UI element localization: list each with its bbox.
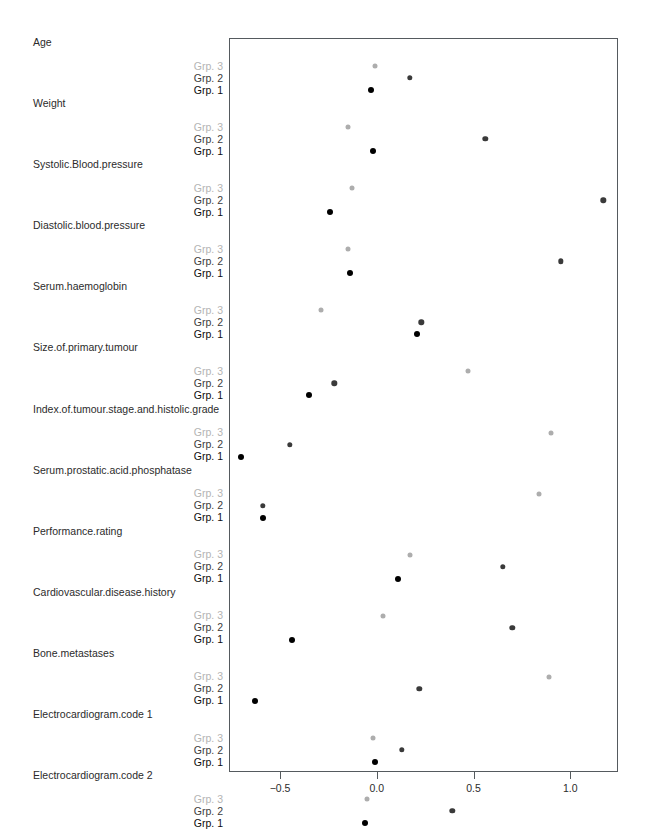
category-label: Weight: [33, 98, 66, 109]
group-label-text: Grp. 3: [163, 733, 223, 744]
data-point[interactable]: [349, 186, 354, 191]
group-label-text: Grp. 2: [163, 439, 223, 450]
data-point[interactable]: [372, 759, 378, 765]
category-label: Electrocardiogram.code 1: [33, 709, 153, 720]
group-label: Grp. 1: [161, 818, 223, 830]
data-point[interactable]: [318, 308, 323, 313]
group-label-text: Grp. 1: [163, 390, 223, 401]
data-point[interactable]: [370, 736, 375, 741]
group-label-text: Grp. 3: [163, 671, 223, 682]
category-label: Age: [33, 37, 52, 48]
axis-tick: [280, 772, 281, 779]
data-point[interactable]: [372, 64, 377, 69]
category-label: Electrocardiogram.code 2: [33, 770, 153, 781]
group-label: Grp. 3: [161, 183, 223, 195]
group-label-text: Grp. 2: [163, 134, 223, 145]
axis-tick: [377, 772, 378, 779]
group-label-text: Grp. 2: [163, 622, 223, 633]
data-point[interactable]: [380, 613, 385, 618]
group-label: Grp. 2: [161, 195, 223, 207]
group-label-text: Grp. 2: [163, 683, 223, 694]
data-point[interactable]: [345, 125, 350, 130]
data-point[interactable]: [260, 515, 266, 521]
group-label: Grp. 1: [161, 512, 223, 524]
dotplot-page: AgeWeightSystolic.Blood.pressureDiastoli…: [0, 0, 649, 835]
group-label-text: Grp. 2: [163, 317, 223, 328]
group-label-text: Grp. 3: [163, 244, 223, 255]
group-label-text: Grp. 1: [163, 329, 223, 340]
group-label-text: Grp. 3: [163, 366, 223, 377]
group-label-text: Grp. 3: [163, 183, 223, 194]
group-label-text: Grp. 3: [163, 61, 223, 72]
category-label: Serum.prostatic.acid.phosphatase: [33, 465, 192, 476]
group-label-text: Grp. 3: [163, 305, 223, 316]
data-point[interactable]: [347, 270, 353, 276]
category-label: Bone.metastases: [33, 648, 114, 659]
group-label: Grp. 2: [161, 806, 223, 818]
group-label-text: Grp. 1: [163, 818, 223, 829]
data-point[interactable]: [365, 797, 370, 802]
group-label-text: Grp. 2: [163, 195, 223, 206]
category-label: Serum.haemoglobin: [33, 281, 127, 292]
axis-tick-label: 0.0: [369, 783, 384, 794]
group-label: Grp. 1: [161, 268, 223, 280]
data-point[interactable]: [547, 674, 552, 679]
data-point[interactable]: [407, 552, 412, 557]
data-point[interactable]: [289, 637, 295, 643]
data-point[interactable]: [368, 87, 374, 93]
data-point[interactable]: [548, 430, 553, 435]
category-label: Size.of.primary.tumour: [33, 342, 138, 353]
category-label: Performance.rating: [33, 526, 122, 537]
group-label-text: Grp. 3: [163, 549, 223, 560]
group-label-text: Grp. 1: [163, 207, 223, 218]
group-label-text: Grp. 3: [163, 122, 223, 133]
group-label-text: Grp. 2: [163, 561, 223, 572]
data-point[interactable]: [414, 331, 420, 337]
group-label: Grp. 1: [161, 757, 223, 769]
axis-tick: [570, 772, 571, 779]
group-label-text: Grp. 3: [163, 427, 223, 438]
data-point[interactable]: [327, 209, 333, 215]
group-label-text: Grp. 1: [163, 757, 223, 768]
data-point[interactable]: [345, 247, 350, 252]
data-point[interactable]: [362, 820, 368, 826]
data-point[interactable]: [395, 576, 401, 582]
group-label: Grp. 3: [161, 794, 223, 806]
group-label-text: Grp. 2: [163, 500, 223, 511]
data-point[interactable]: [465, 369, 470, 374]
group-label-text: Grp. 2: [163, 73, 223, 84]
axis-tick-label: 0.5: [466, 783, 481, 794]
data-point[interactable]: [370, 148, 376, 154]
data-point[interactable]: [306, 392, 312, 398]
category-label: Cardiovascular.disease.history: [33, 587, 175, 598]
group-label-text: Grp. 1: [163, 573, 223, 584]
data-point[interactable]: [450, 808, 455, 813]
group-label-text: Grp. 2: [163, 256, 223, 267]
group-label-text: Grp. 1: [163, 451, 223, 462]
group-label: Grp. 1: [161, 573, 223, 585]
data-point[interactable]: [537, 491, 542, 496]
group-label-text: Grp. 2: [163, 806, 223, 817]
group-label-text: Grp. 1: [163, 634, 223, 645]
group-label: Grp. 1: [161, 85, 223, 97]
group-label-text: Grp. 3: [163, 610, 223, 621]
group-label: Grp. 2: [161, 745, 223, 757]
group-label-text: Grp. 1: [163, 512, 223, 523]
group-label-text: Grp. 1: [163, 268, 223, 279]
group-label-text: Grp. 3: [163, 794, 223, 805]
group-label: Grp. 2: [161, 134, 223, 146]
group-label: Grp. 1: [161, 451, 223, 463]
group-label: Grp. 1: [161, 390, 223, 402]
data-point[interactable]: [238, 454, 244, 460]
group-label-text: Grp. 1: [163, 85, 223, 96]
group-label: Grp. 1: [161, 329, 223, 341]
group-label: Grp. 3: [161, 733, 223, 745]
group-label: Grp. 2: [161, 256, 223, 268]
group-label: Grp. 3: [161, 122, 223, 134]
group-label: Grp. 2: [161, 73, 223, 85]
group-label: Grp. 3: [161, 61, 223, 73]
data-point[interactable]: [252, 698, 258, 704]
group-label-text: Grp. 2: [163, 745, 223, 756]
group-label: Grp. 1: [161, 207, 223, 219]
group-label-text: Grp. 3: [163, 488, 223, 499]
